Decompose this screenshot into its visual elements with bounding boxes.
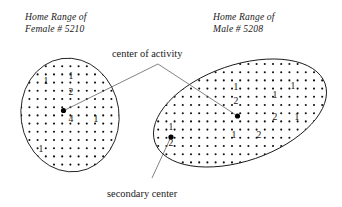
location-fix-dot xyxy=(174,137,176,139)
location-fix-dot xyxy=(239,96,241,98)
fix-count-label: 1 xyxy=(295,111,300,122)
location-fix-dot xyxy=(61,172,63,174)
location-fix-dot xyxy=(313,112,315,114)
location-fix-dot xyxy=(149,145,151,147)
location-fix-dot xyxy=(198,178,200,180)
location-fix-dot xyxy=(61,49,63,51)
location-fix-dot xyxy=(264,178,266,180)
location-fix-dot xyxy=(61,114,63,116)
location-fix-dot xyxy=(78,73,80,75)
location-fix-dot xyxy=(231,194,233,196)
location-fix-dot xyxy=(231,38,233,40)
location-fix-dot xyxy=(141,161,143,163)
title-male-5208: Home Range of Male # 5208 xyxy=(212,11,276,34)
location-fix-dot xyxy=(215,6,217,8)
location-fix-dot xyxy=(86,123,88,125)
fix-count-label: 2 xyxy=(273,111,278,122)
location-fix-dot xyxy=(206,30,208,32)
fix-count-label: 2 xyxy=(234,95,239,106)
location-fix-dot xyxy=(157,38,159,40)
location-fix-dot xyxy=(149,170,151,172)
location-fix-dot xyxy=(264,63,266,65)
location-fix-dot xyxy=(264,71,266,73)
location-fix-dot xyxy=(190,186,192,188)
location-fix-dot xyxy=(280,129,282,131)
location-fix-dot xyxy=(297,63,299,65)
location-fix-dot xyxy=(206,88,208,90)
location-fix-dot xyxy=(206,194,208,196)
location-fix-dot xyxy=(45,180,47,182)
location-fix-dot xyxy=(133,30,135,32)
location-fix-dot xyxy=(28,65,30,67)
location-fix-dot xyxy=(223,79,225,81)
location-fix-dot xyxy=(110,180,112,182)
location-fix-dot xyxy=(69,65,71,67)
location-fix-dot xyxy=(198,14,200,16)
location-fix-dot xyxy=(305,120,307,122)
location-fix-dot xyxy=(198,47,200,49)
location-fix-dot xyxy=(264,145,266,147)
location-fix-dot xyxy=(174,120,176,122)
location-fix-dot xyxy=(190,178,192,180)
location-fix-dot xyxy=(288,63,290,65)
location-fix-dot xyxy=(321,186,323,188)
location-fix-dot xyxy=(297,79,299,81)
location-fix-dot xyxy=(86,131,88,133)
location-fix-dot xyxy=(20,139,22,141)
location-fix-dot xyxy=(37,98,39,100)
location-fix-dot xyxy=(305,170,307,172)
location-fix-dot xyxy=(206,47,208,49)
location-fix-dot xyxy=(272,129,274,131)
location-fix-dot xyxy=(110,123,112,125)
fix-count-label: 1 xyxy=(39,143,44,154)
location-fix-dot xyxy=(321,137,323,139)
location-fix-dot xyxy=(149,6,151,8)
location-fix-dot xyxy=(174,202,176,204)
location-fix-dot xyxy=(329,88,331,90)
location-fix-dot xyxy=(133,153,135,155)
location-fix-dot xyxy=(288,120,290,122)
location-fix-dot xyxy=(45,147,47,149)
location-fix-dot xyxy=(20,73,22,75)
location-fix-dot xyxy=(110,155,112,157)
location-fix-dot xyxy=(119,147,121,149)
location-fix-dot xyxy=(157,202,159,204)
location-fix-dot xyxy=(272,71,274,73)
activity-centers-male xyxy=(168,113,240,139)
location-fix-dot xyxy=(4,41,6,43)
location-fix-dot xyxy=(198,79,200,81)
location-fix-dot xyxy=(223,129,225,131)
location-fix-dot xyxy=(127,139,129,141)
location-fix-dot xyxy=(37,90,39,92)
location-fix-dot xyxy=(53,180,55,182)
location-fix-dot xyxy=(329,194,331,196)
location-fix-dot xyxy=(141,22,143,24)
location-fix-dot xyxy=(141,79,143,81)
location-fix-dot xyxy=(206,202,208,204)
location-fix-dot xyxy=(264,112,266,114)
location-fix-dot xyxy=(133,14,135,16)
location-fix-dot xyxy=(206,137,208,139)
location-fix-dot xyxy=(165,112,167,114)
location-fix-dot xyxy=(4,65,6,67)
location-fix-dot xyxy=(110,164,112,166)
location-fix-dot xyxy=(61,73,63,75)
location-fix-dot xyxy=(69,41,71,43)
location-fix-dot xyxy=(53,147,55,149)
location-fix-dot xyxy=(135,82,137,84)
location-fix-dot xyxy=(149,137,151,139)
location-fix-dot xyxy=(338,202,340,204)
location-fix-dot xyxy=(190,120,192,122)
coa-to-female xyxy=(65,64,158,110)
location-fix-dot xyxy=(264,47,266,49)
location-fix-dot xyxy=(141,96,143,98)
location-fix-dot xyxy=(264,170,266,172)
location-fix-dot xyxy=(223,71,225,73)
location-fix-dot xyxy=(338,104,340,106)
location-fix-dot xyxy=(198,186,200,188)
location-fix-dot xyxy=(206,129,208,131)
location-fix-dot xyxy=(206,63,208,65)
location-fix-dot xyxy=(12,164,14,166)
location-fix-dot xyxy=(264,38,266,40)
location-fix-dot xyxy=(198,153,200,155)
